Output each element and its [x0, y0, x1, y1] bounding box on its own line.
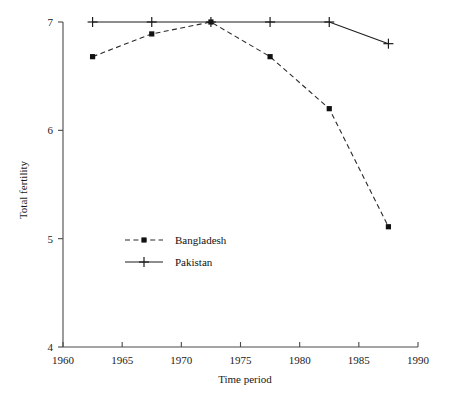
- x-tick-label: 1980: [289, 354, 312, 366]
- data-point-bangladesh: [149, 31, 154, 36]
- x-tick-label: 1985: [348, 354, 371, 366]
- fertility-line-chart: 4567 1960196519701975198019851990 Bangla…: [0, 0, 450, 402]
- y-tick-label: 5: [48, 233, 54, 245]
- data-point-bangladesh: [386, 224, 391, 229]
- data-point-bangladesh: [90, 54, 95, 59]
- x-tick-label: 1990: [407, 354, 430, 366]
- y-tick-label: 4: [48, 341, 54, 353]
- chart-container: 4567 1960196519701975198019851990 Bangla…: [0, 0, 450, 402]
- y-axis-title: Total fertility: [17, 160, 29, 219]
- y-axis: 4567: [48, 16, 64, 353]
- y-tick-label: 6: [48, 124, 54, 136]
- legend-label-bangladesh: Bangladesh: [175, 234, 227, 246]
- chart-legend: BangladeshPakistan: [125, 234, 227, 268]
- x-axis: 1960196519701975198019851990: [52, 342, 430, 366]
- x-tick-label: 1975: [230, 354, 253, 366]
- x-axis-title: Time period: [218, 373, 272, 385]
- y-tick-label: 7: [48, 16, 54, 28]
- legend-marker-bangladesh: [141, 237, 146, 242]
- x-tick-label: 1965: [111, 354, 134, 366]
- legend-item-pakistan[interactable]: Pakistan: [125, 256, 213, 268]
- legend-label-pakistan: Pakistan: [175, 256, 213, 268]
- series-line-pakistan: [93, 22, 389, 44]
- x-tick-label: 1970: [170, 354, 193, 366]
- data-point-bangladesh: [327, 106, 332, 111]
- series-line-bangladesh: [93, 22, 389, 227]
- data-point-bangladesh: [267, 54, 272, 59]
- series-layer: [88, 17, 394, 229]
- x-tick-label: 1960: [52, 354, 75, 366]
- legend-item-bangladesh[interactable]: Bangladesh: [125, 234, 227, 246]
